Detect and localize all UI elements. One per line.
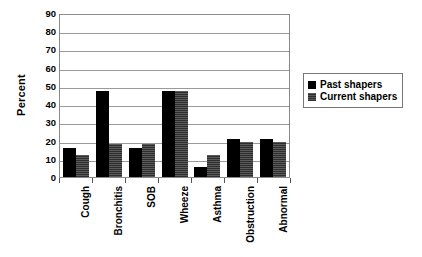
x-axis-label-cell: SOB bbox=[125, 184, 158, 254]
x-axis-tick-mark bbox=[125, 178, 126, 183]
bar bbox=[142, 144, 155, 177]
bar-group bbox=[256, 15, 289, 177]
bar bbox=[129, 148, 142, 177]
bar-group bbox=[60, 15, 93, 177]
y-axis-tick-labels: 9080706050403020100 bbox=[32, 14, 56, 178]
x-axis-category-label: Obstruction bbox=[246, 186, 256, 243]
bar bbox=[162, 91, 175, 177]
x-axis-tick-mark bbox=[257, 178, 258, 183]
bar-group bbox=[224, 15, 257, 177]
x-axis-tick-marks bbox=[59, 178, 290, 183]
bar bbox=[109, 144, 122, 177]
y-axis-tick-label: 0 bbox=[32, 173, 56, 183]
y-axis-tick-label: 20 bbox=[32, 137, 56, 147]
x-axis-category-label: SOB bbox=[147, 186, 157, 208]
bar bbox=[207, 155, 220, 177]
y-axis-tick-label: 30 bbox=[32, 119, 56, 129]
bar-group bbox=[158, 15, 191, 177]
y-axis-tick-label: 90 bbox=[32, 9, 56, 19]
legend-label: Past shapers bbox=[320, 79, 382, 90]
x-axis-tick-mark bbox=[59, 178, 60, 183]
y-axis-tick-label: 80 bbox=[32, 27, 56, 37]
bar bbox=[227, 139, 240, 177]
bar bbox=[240, 142, 253, 177]
bar bbox=[260, 139, 273, 177]
x-axis-category-label: Abnormal bbox=[279, 186, 289, 233]
bar bbox=[63, 148, 76, 177]
x-axis-tick-mark bbox=[92, 178, 93, 183]
bar bbox=[96, 91, 109, 177]
bar bbox=[76, 155, 89, 177]
y-axis-title-label: Percent bbox=[15, 74, 27, 116]
y-axis-tick-label: 40 bbox=[32, 100, 56, 110]
legend-entry: Past shapers bbox=[308, 79, 397, 90]
x-axis-label-cell: Abnormal bbox=[257, 184, 290, 254]
bar bbox=[194, 167, 207, 177]
x-axis-label-cell: Obstruction bbox=[224, 184, 257, 254]
y-axis-tick-label: 10 bbox=[32, 155, 56, 165]
current-swatch bbox=[308, 93, 316, 101]
bar-chart-figure: Percent 9080706050403020100 CoughBronchi… bbox=[0, 0, 422, 257]
x-axis-category-label: Cough bbox=[81, 186, 91, 218]
x-axis-tick-mark bbox=[290, 178, 291, 183]
y-axis-tick-label: 70 bbox=[32, 46, 56, 56]
bar bbox=[175, 91, 188, 177]
bar-group bbox=[191, 15, 224, 177]
x-axis-category-label: Asthma bbox=[213, 186, 223, 223]
x-axis-label-cell: Cough bbox=[59, 184, 92, 254]
x-axis-label-cell: Asthma bbox=[191, 184, 224, 254]
bar-group bbox=[93, 15, 126, 177]
y-axis-title: Percent bbox=[8, 0, 34, 190]
x-axis-category-label: Wheeze bbox=[180, 186, 190, 223]
x-axis-category-labels: CoughBronchitisSOBWheezeAsthmaObstructio… bbox=[59, 184, 290, 254]
x-axis-tick-mark bbox=[158, 178, 159, 183]
legend-label: Current shapers bbox=[320, 91, 397, 102]
x-axis-tick-mark bbox=[224, 178, 225, 183]
past-swatch bbox=[308, 81, 316, 89]
x-axis-category-label: Bronchitis bbox=[114, 186, 124, 235]
y-axis-tick-label: 50 bbox=[32, 82, 56, 92]
bars-layer bbox=[60, 15, 289, 177]
y-axis-tick-label: 60 bbox=[32, 64, 56, 74]
x-axis-label-cell: Bronchitis bbox=[92, 184, 125, 254]
chart-legend: Past shapersCurrent shapers bbox=[303, 73, 403, 108]
x-axis-label-cell: Wheeze bbox=[158, 184, 191, 254]
bar-group bbox=[125, 15, 158, 177]
bar bbox=[273, 142, 286, 177]
plot-area bbox=[59, 14, 290, 178]
x-axis-tick-mark bbox=[191, 178, 192, 183]
legend-entry: Current shapers bbox=[308, 91, 397, 102]
